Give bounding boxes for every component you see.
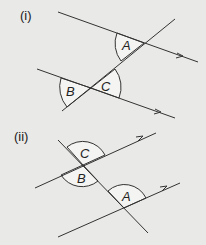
part-ii: (ii) C B A (14, 129, 180, 237)
angle-label-a: A (121, 189, 131, 204)
part-i: (i) A B C (20, 8, 198, 118)
part-ii-label: (ii) (14, 129, 28, 144)
parallel-lines-diagram: (i) A B C (ii) C B A (0, 0, 206, 245)
angle-label-c: C (101, 79, 111, 94)
angle-label-b: B (66, 84, 75, 99)
angle-label-b: B (77, 171, 86, 186)
angle-label-c: C (80, 146, 90, 161)
part-i-label: (i) (20, 8, 32, 23)
angle-label-a: A (121, 38, 131, 53)
